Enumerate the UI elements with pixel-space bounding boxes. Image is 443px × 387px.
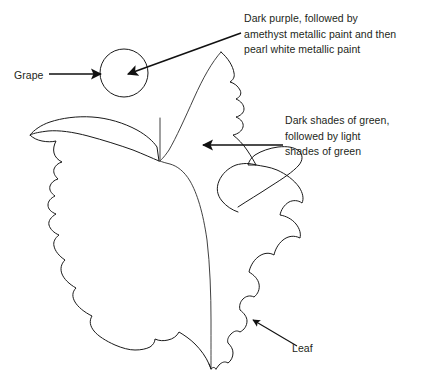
- annotation-line: Dark purple, followed by: [244, 11, 396, 27]
- leaf-left-lobe-edge: [30, 131, 211, 369]
- leaf-right-lower-edge: [216, 165, 303, 369]
- grape-label: Grape: [14, 68, 43, 82]
- annotation-line: Dark shades of green,: [285, 113, 389, 129]
- leaf-drawing-group: [30, 52, 303, 369]
- diagram-canvas-root: Dark purple, followed by amethyst metall…: [0, 0, 443, 387]
- annotation-line: shades of green: [285, 144, 389, 160]
- leaf-label: Leaf: [292, 341, 313, 355]
- leaf-notch-inner-curve: [217, 164, 256, 213]
- leaf-bottom-tip: [209, 364, 216, 369]
- purple-annotation-arrow: [128, 33, 241, 74]
- leaf-center-vein: [160, 161, 211, 369]
- grape-circle: [100, 49, 148, 97]
- annotation-line: followed by light: [285, 129, 389, 145]
- annotation-line: amethyst metallic paint and then: [244, 27, 396, 43]
- leaf-left-upper-edge: [30, 117, 159, 161]
- leaf-label-arrow: [253, 320, 297, 346]
- annotation-line: pearl white metallic paint: [244, 42, 396, 58]
- diagram-drawing: [0, 0, 443, 387]
- leaf-color-annotation: Dark shades of green, followed by light …: [285, 113, 389, 160]
- grape-color-annotation: Dark purple, followed by amethyst metall…: [244, 11, 396, 58]
